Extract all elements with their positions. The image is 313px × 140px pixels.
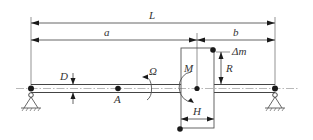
point-A-dot [115, 86, 121, 92]
label-A: A [113, 93, 121, 105]
dimension-a: a [31, 26, 197, 43]
shaft-rotor-diagram: L a b Δm R M [0, 0, 313, 140]
dimension-b: b [197, 26, 275, 43]
rotation-omega: Ω [142, 65, 157, 100]
curved-arrow-icon [142, 75, 148, 80]
pin-icon [273, 93, 278, 98]
label-b: b [233, 26, 239, 38]
arrow-left-icon [181, 117, 188, 122]
arrow-left-icon [197, 38, 205, 43]
arrow-right-icon [267, 21, 275, 26]
label-a: a [104, 26, 110, 38]
label-L: L [148, 9, 155, 21]
label-R: R [225, 62, 233, 74]
dimension-R: R [219, 52, 234, 84]
dimension-H: H [181, 105, 214, 122]
arrow-right-icon [207, 117, 214, 122]
pin-icon [29, 93, 34, 98]
arrow-up-icon [71, 93, 76, 100]
arrow-right-icon [267, 38, 275, 43]
label-delta-m: Δm [231, 45, 246, 57]
arrow-left-icon [31, 21, 39, 26]
arrow-down-icon [219, 77, 224, 84]
right-bearing-dot [272, 86, 278, 92]
disk-bottom-dot [177, 126, 183, 132]
dimension-D: D [59, 70, 76, 104]
arrow-up-icon [219, 52, 224, 59]
left-bearing-dot [28, 86, 34, 92]
right-pin-support [265, 86, 285, 112]
arrow-down-icon [71, 78, 76, 85]
label-D: D [59, 70, 68, 82]
unbalance-mass-dot [210, 47, 216, 53]
label-omega: Ω [149, 65, 157, 77]
diagram-canvas: L a b Δm R M [0, 0, 313, 140]
disk-center-dot [194, 86, 199, 91]
label-M: M [183, 62, 194, 74]
arrow-right-icon [189, 38, 197, 43]
left-pin-support [21, 86, 41, 112]
label-H: H [192, 105, 202, 117]
dimension-L: L [31, 9, 275, 26]
arrow-left-icon [31, 38, 39, 43]
